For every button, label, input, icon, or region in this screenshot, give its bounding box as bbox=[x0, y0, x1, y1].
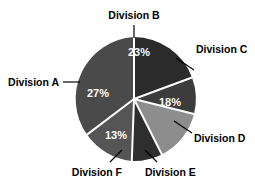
callout-label-division-c[interactable]: Division C bbox=[196, 43, 248, 55]
pie-chart-canvas: 23% 27% 18% 13% Division B Division C Di… bbox=[0, 0, 255, 191]
callout-label-division-d[interactable]: Division D bbox=[194, 132, 246, 144]
value-label-division-f: 13% bbox=[105, 129, 127, 141]
callout-label-division-a[interactable]: Division A bbox=[8, 76, 59, 88]
callout-label-division-b[interactable]: Division B bbox=[108, 9, 160, 21]
value-label-division-b: 23% bbox=[128, 46, 150, 58]
value-label-division-a: 27% bbox=[87, 87, 109, 99]
callout-label-division-f[interactable]: Division F bbox=[72, 166, 123, 178]
callout-label-division-e[interactable]: Division E bbox=[145, 166, 196, 178]
value-label-division-d: 18% bbox=[159, 96, 181, 108]
pie-chart: 23% 27% 18% 13% Division B Division C Di… bbox=[0, 0, 255, 191]
